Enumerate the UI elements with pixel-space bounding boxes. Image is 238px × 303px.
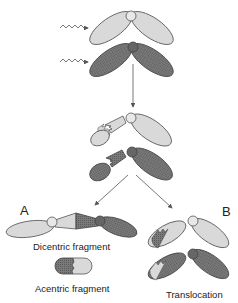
chromosome-light-broken [88,108,177,152]
chromosome-dark-broken [86,142,177,186]
panel-b-label: B [222,204,231,219]
centromere-icon [95,216,105,226]
centromere-icon [188,216,198,226]
chromosome-diagram: A B Dicentric fragment Acentric fragment… [0,0,238,303]
translocation-label: Translocation [166,289,223,300]
centromere-icon [47,217,57,227]
centromere-icon [188,249,198,259]
acentric-fragment [55,258,92,274]
centromere-icon [128,42,138,52]
translocation-chromosome-top [144,213,233,253]
dicentric-label: Dicentric fragment [33,241,110,252]
radiation-arrow-top [60,25,88,28]
centromere-icon [126,11,136,21]
centromere-icon [126,113,136,123]
translocation-chromosome-bottom [144,244,233,284]
acentric-label: Acentric fragment [35,283,110,294]
radiation-arrow-bottom [60,59,88,62]
centromere-icon [127,147,137,157]
panel-a-label: A [20,203,29,218]
